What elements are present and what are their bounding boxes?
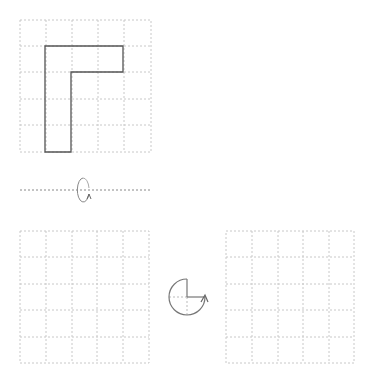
source-grid [20,20,151,152]
diagram-canvas [0,0,370,375]
answer-grid-1[interactable] [20,231,149,363]
rotate-270-icon [169,279,208,315]
answer-grid-2[interactable] [226,231,354,363]
